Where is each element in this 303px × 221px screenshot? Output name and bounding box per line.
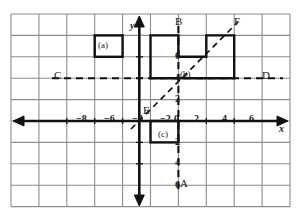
y-tick-label-6: 6 (175, 51, 180, 61)
shape-label-a: (a) (98, 41, 108, 50)
point-label-d: D (262, 70, 270, 81)
x-axis-name: x (279, 124, 284, 134)
x-tick-label--8: −8 (76, 114, 87, 124)
y-axis-arrow-down (134, 195, 144, 206)
point-label-b: B (175, 16, 182, 27)
y-tick-label-2: 2 (175, 94, 180, 104)
x-tick-label--4: −4 (132, 114, 143, 124)
x-tick-label--2: −2 (160, 114, 171, 124)
x-tick-label--6: −6 (104, 114, 115, 124)
origin-label-zero: 0 (174, 114, 179, 124)
x-tick-label-2: 2 (194, 114, 199, 124)
x-tick-label-4: 4 (222, 114, 227, 124)
y-axis-name: y (130, 21, 134, 31)
coordinate-plane-svg (0, 0, 303, 221)
point-label-e: E (143, 105, 150, 116)
shape-label-b: (b) (180, 70, 191, 79)
x-axis-arrow-left (13, 116, 24, 126)
point-label-c: C (54, 70, 61, 81)
y-axis-arrow-up (134, 16, 144, 27)
point-label-f: F (234, 16, 240, 27)
shape-label-c: (c) (158, 130, 168, 139)
x-tick-label-6: 6 (249, 114, 254, 124)
coordinate-grid-figure: −8 −6 −4 −2 2 4 6 0 6 4 2 2 4 6 x y A B … (0, 0, 303, 221)
y-tick-label--2: 2 (175, 137, 180, 147)
point-label-a: A (180, 178, 188, 189)
y-tick-label--4: 4 (175, 158, 180, 168)
